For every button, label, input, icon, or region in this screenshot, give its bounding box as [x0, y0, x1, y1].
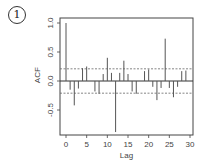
x-axis-label: Lag — [120, 151, 133, 160]
x-tick-label: 5 — [84, 140, 89, 149]
plot-frame — [60, 18, 193, 135]
y-tick-label: -0.5 — [46, 103, 55, 117]
x-tick-label: 20 — [144, 140, 153, 149]
acf-chart: ACF 051015202530-0.50.00.51.0Lag — [0, 0, 206, 164]
x-tick-label: 15 — [124, 140, 133, 149]
x-tick-label: 0 — [64, 140, 69, 149]
y-tick-label: 0.5 — [46, 46, 55, 58]
y-tick-label: 1.0 — [46, 17, 55, 29]
y-tick-label: 0.0 — [46, 75, 55, 87]
x-tick-label: 30 — [186, 140, 195, 149]
x-tick-label: 10 — [103, 140, 112, 149]
x-tick-label: 25 — [165, 140, 174, 149]
y-axis-label: ACF — [33, 67, 42, 83]
plot-area: 051015202530-0.50.00.51.0Lag — [46, 17, 195, 160]
y-axis-label-text: ACF — [33, 67, 42, 83]
